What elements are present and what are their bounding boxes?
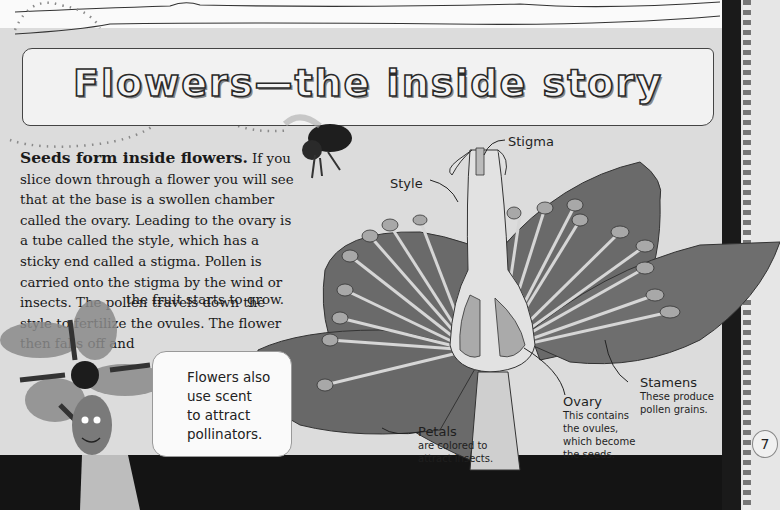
book-page: Flowers—the inside story	[0, 0, 780, 510]
speech-bubble-text: Flowers also use scent to attract pollin…	[187, 368, 270, 444]
flower-character-icon	[0, 0, 780, 510]
page-number: 7	[752, 430, 778, 458]
speech-bubble: Flowers also use scent to attract pollin…	[152, 351, 292, 457]
